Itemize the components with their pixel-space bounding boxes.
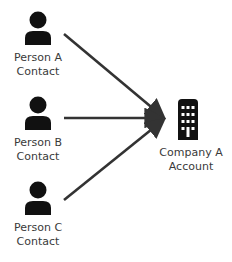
person-b-name: Person B <box>0 136 76 150</box>
company-a-name: Company A <box>150 146 232 160</box>
person-icon <box>22 10 54 46</box>
person-a-label: Person A Contact <box>0 51 76 79</box>
person-c-type: Contact <box>0 235 76 249</box>
person-b-label: Person B Contact <box>0 136 76 164</box>
person-b-type: Contact <box>0 150 76 164</box>
person-icon <box>22 180 54 216</box>
company-a-type: Account <box>150 160 232 174</box>
building-icon <box>175 98 201 140</box>
person-icon <box>22 95 54 131</box>
relationship-diagram: Person A Contact Person B Contact Person… <box>0 0 232 262</box>
person-a-type: Contact <box>0 65 76 79</box>
company-a-label: Company A Account <box>150 146 232 174</box>
person-c-name: Person C <box>0 221 76 235</box>
edge-person-c-to-company <box>64 121 162 200</box>
person-a-name: Person A <box>0 51 76 65</box>
person-c-label: Person C Contact <box>0 221 76 249</box>
edge-person-a-to-company <box>64 34 162 116</box>
